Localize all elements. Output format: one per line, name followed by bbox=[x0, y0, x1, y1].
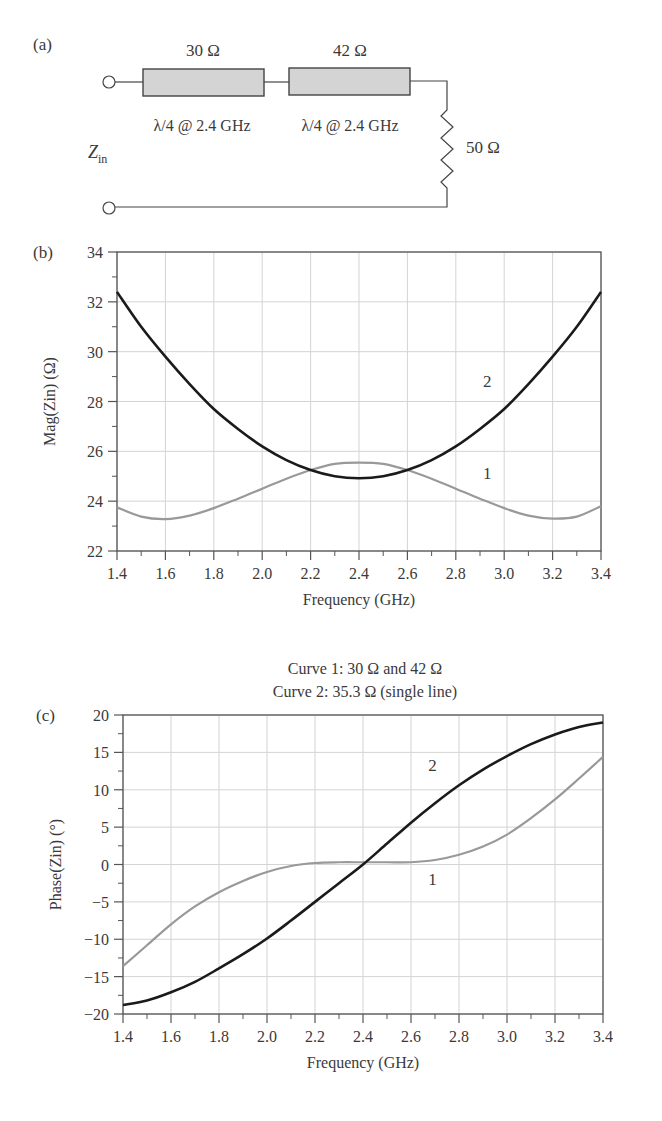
tline2-length: λ/4 @ 2.4 GHz bbox=[301, 117, 398, 135]
y-tick-label: 34 bbox=[87, 244, 103, 261]
y-tick-label: 10 bbox=[93, 782, 109, 799]
x-tick-label: 1.4 bbox=[107, 565, 127, 582]
caption-curve-1: Curve 1: 30 Ω and 42 Ω bbox=[288, 660, 443, 677]
figure: (a) 30 Ω 42 Ω λ/4 @ 2.4 GHz λ/4 @ 2.4 GH… bbox=[0, 0, 662, 1121]
panel-label: (b) bbox=[33, 243, 53, 262]
y-tick-label: 0 bbox=[101, 857, 109, 874]
curve-label-1: 1 bbox=[483, 464, 492, 483]
magnitude-chart: 1.41.61.82.02.22.42.62.83.03.23.42224262… bbox=[33, 243, 611, 609]
y-tick-label: 28 bbox=[87, 394, 103, 411]
x-tick-label: 2.8 bbox=[446, 565, 466, 582]
y-tick-label: −5 bbox=[92, 894, 109, 911]
y-tick-label: −15 bbox=[84, 969, 109, 986]
circuit-diagram: (a) 30 Ω 42 Ω λ/4 @ 2.4 GHz λ/4 @ 2.4 GH… bbox=[33, 35, 500, 214]
y-tick-label: −20 bbox=[84, 1006, 109, 1023]
load-impedance: 50 Ω bbox=[466, 138, 500, 157]
y-tick-label: 32 bbox=[87, 294, 103, 311]
panel-label-a: (a) bbox=[33, 35, 52, 54]
x-tick-label: 3.4 bbox=[591, 565, 611, 582]
caption-curve-2: Curve 2: 35.3 Ω (single line) bbox=[273, 683, 457, 701]
tline-42-ohm bbox=[289, 68, 410, 95]
x-axis-label: Frequency (GHz) bbox=[303, 591, 415, 609]
x-tick-label: 2.0 bbox=[257, 1028, 277, 1045]
y-tick-label: 15 bbox=[93, 744, 109, 761]
x-tick-label: 3.2 bbox=[543, 565, 563, 582]
x-tick-label: 3.2 bbox=[545, 1028, 565, 1045]
x-tick-label: 2.6 bbox=[397, 565, 417, 582]
x-tick-label: 2.4 bbox=[353, 1028, 373, 1045]
input-terminal-top bbox=[103, 76, 115, 88]
x-tick-label: 1.4 bbox=[113, 1028, 133, 1045]
x-tick-label: 3.4 bbox=[593, 1028, 613, 1045]
panel-label: (c) bbox=[36, 706, 55, 725]
y-tick-label: 20 bbox=[93, 707, 109, 724]
phase-chart: 1.41.61.82.02.22.42.62.83.03.23.4−20−15−… bbox=[36, 706, 613, 1072]
y-tick-label: 5 bbox=[101, 819, 109, 836]
y-axis-label: Phase(Zin) (°) bbox=[47, 819, 65, 910]
y-axis-label: Mag(Zin) (Ω) bbox=[41, 357, 59, 446]
x-tick-label: 3.0 bbox=[497, 1028, 517, 1045]
x-tick-label: 1.6 bbox=[161, 1028, 181, 1045]
x-tick-label: 1.6 bbox=[155, 565, 175, 582]
curve-label-1: 1 bbox=[428, 870, 437, 889]
x-tick-label: 2.2 bbox=[305, 1028, 325, 1045]
y-tick-label: 30 bbox=[87, 344, 103, 361]
x-tick-label: 1.8 bbox=[204, 565, 224, 582]
input-terminal-bottom bbox=[103, 202, 115, 214]
x-tick-label: 1.8 bbox=[209, 1028, 229, 1045]
x-tick-label: 2.4 bbox=[349, 565, 369, 582]
zin-label: Zin bbox=[88, 142, 107, 166]
y-tick-label: −10 bbox=[84, 931, 109, 948]
x-axis-label: Frequency (GHz) bbox=[307, 1054, 419, 1072]
load-resistor-and-return-wire bbox=[113, 81, 453, 207]
x-tick-label: 2.2 bbox=[301, 565, 321, 582]
y-tick-label: 24 bbox=[87, 493, 103, 510]
curve-label-2: 2 bbox=[483, 372, 492, 391]
tline-30-ohm bbox=[143, 69, 264, 96]
tline1-impedance: 30 Ω bbox=[186, 41, 220, 60]
x-tick-label: 2.6 bbox=[401, 1028, 421, 1045]
curve-label-2: 2 bbox=[428, 756, 437, 775]
tline1-length: λ/4 @ 2.4 GHz bbox=[153, 117, 250, 135]
x-tick-label: 2.0 bbox=[252, 565, 272, 582]
x-tick-label: 2.8 bbox=[449, 1028, 469, 1045]
y-tick-label: 26 bbox=[87, 443, 103, 460]
tline2-impedance: 42 Ω bbox=[333, 41, 367, 60]
y-tick-label: 22 bbox=[87, 543, 103, 560]
x-tick-label: 3.0 bbox=[494, 565, 514, 582]
